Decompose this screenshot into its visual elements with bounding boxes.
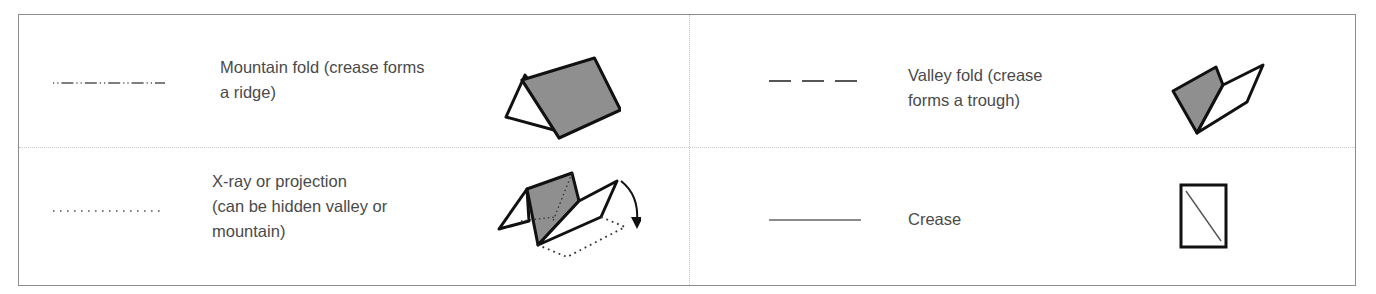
valley-fold-icon [1169, 61, 1269, 151]
legend-cell-crease: Crease [689, 147, 1357, 287]
crease-square-icon [1179, 183, 1231, 253]
mountain-fold-line-symbol [51, 79, 167, 87]
fold-symbols-legend: Mountain fold (crease forms a ridge) Val… [18, 14, 1356, 286]
legend-cell-valley-fold: Valley fold (crease forms a trough) [689, 15, 1357, 147]
valley-fold-label: Valley fold (crease forms a trough) [908, 63, 1043, 113]
xray-label: X-ray or projection (can be hidden valle… [212, 169, 387, 244]
crease-line-symbol [769, 217, 865, 223]
mountain-fold-label: Mountain fold (crease forms a ridge) [220, 55, 425, 105]
xray-line-symbol [51, 207, 167, 215]
mountain-fold-icon [481, 53, 621, 145]
valley-fold-line-symbol [769, 77, 865, 85]
legend-cell-xray: X-ray or projection (can be hidden valle… [19, 147, 689, 287]
xray-projection-icon [471, 165, 641, 265]
crease-label: Crease [908, 207, 961, 232]
legend-cell-mountain-fold: Mountain fold (crease forms a ridge) [19, 15, 689, 147]
